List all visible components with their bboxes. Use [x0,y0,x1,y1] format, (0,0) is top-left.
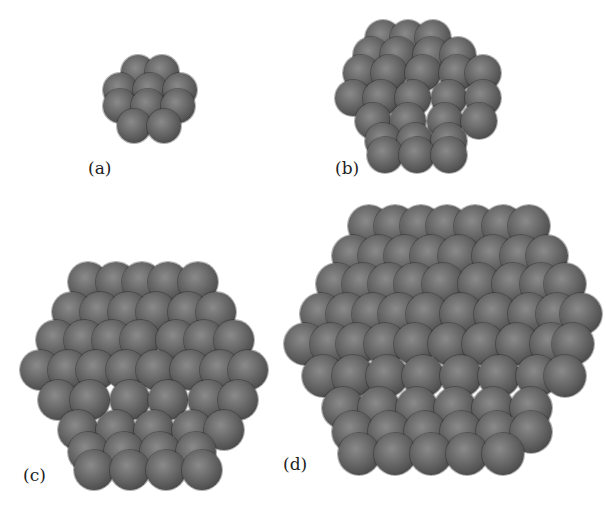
atom-sphere [146,450,186,490]
panel-label-a: (a) [88,160,111,177]
atom-sphere [399,137,435,173]
nanocluster-figure: (a)(b)(c)(d) [0,0,606,507]
atom-cluster-a [95,55,210,175]
panel-b [335,15,505,180]
panel-label-d: (d) [283,456,307,473]
panel-c [18,262,254,487]
atom-cluster-b [335,15,505,180]
panel-label-b: (b) [335,160,359,177]
atom-sphere [482,433,524,475]
atom-cluster-c [18,262,254,487]
atom-sphere [544,355,586,397]
atom-sphere [110,450,150,490]
atom-sphere [367,137,403,173]
atom-sphere [461,103,497,139]
panel-d [282,205,594,495]
atom-cluster-d [282,205,594,495]
atom-sphere [182,450,222,490]
atom-sphere [117,109,151,143]
atom-sphere [147,109,181,143]
panel-a [95,55,210,175]
atom-sphere [431,137,467,173]
atom-sphere [74,450,114,490]
panel-label-c: (c) [23,467,46,484]
